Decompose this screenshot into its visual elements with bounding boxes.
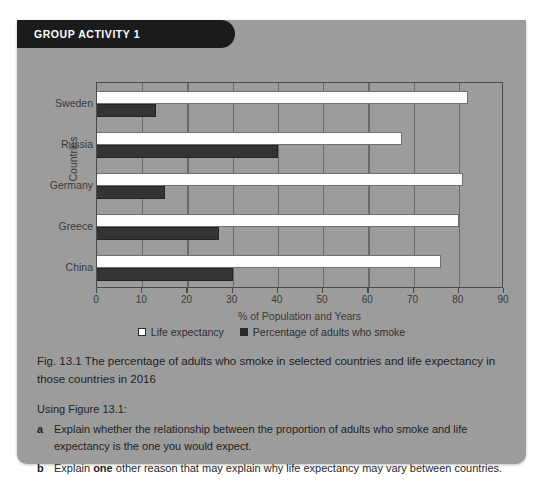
question-marker: b [37,460,54,477]
legend-item: Percentage of adults who smoke [240,326,405,338]
chart-bar [97,132,402,145]
chart-x-tick-label: 20 [181,294,192,305]
group-activity-panel: GROUP ACTIVITY 1 Countries SwedenRussiaG… [17,20,526,464]
chart-bar [97,227,219,240]
chart-category-label: China [47,261,93,273]
chart-x-tick-label: 60 [362,294,373,305]
questions-list: aExplain whether the relationship betwee… [37,421,519,482]
chart-x-tick-label: 50 [317,294,328,305]
question-text: Explain one other reason that may explai… [54,460,519,477]
chart-bar [97,186,165,199]
chart-category-label: Greece [47,220,93,232]
figure-caption: Fig. 13.1 The percentage of adults who s… [37,353,509,389]
activity-title: GROUP ACTIVITY 1 [34,28,140,40]
chart-x-axis: 0102030405060708090 [96,288,503,310]
chart-category-label: Germany [47,179,93,191]
chart-x-tick-label: 40 [271,294,282,305]
chart-x-tick-label: 90 [497,294,508,305]
chart-x-tick [458,288,459,293]
chart-bar [97,145,278,158]
question-item: bExplain one other reason that may expla… [37,460,519,477]
chart-bar [97,173,463,186]
chart-x-axis-title: % of Population and Years [96,310,503,322]
chart-x-tick [413,288,414,293]
chart-category-labels: SwedenRussiaGermanyGreeceChina [47,82,93,288]
question-item: aExplain whether the relationship betwee… [37,421,519,454]
chart-x-tick-label: 0 [93,294,99,305]
chart-x-tick-label: 30 [226,294,237,305]
legend-item: Life expectancy [138,326,224,338]
legend-label: Life expectancy [151,326,224,338]
chart-x-tick [96,288,97,293]
chart-x-tick [367,288,368,293]
chart-x-tick-label: 80 [452,294,463,305]
chart-category-label: Sweden [47,97,93,109]
chart-plot-area [96,82,503,288]
chart-x-tick [322,288,323,293]
chart-bar [97,104,156,117]
question-text: Explain whether the relationship between… [54,421,519,454]
questions-intro: Using Figure 13.1: [37,403,509,415]
activity-header-tab: GROUP ACTIVITY 1 [17,20,235,48]
chart-x-tick-label: 70 [407,294,418,305]
chart-legend: Life expectancyPercentage of adults who … [17,326,526,338]
chart-x-tick [186,288,187,293]
bar-chart: Countries SwedenRussiaGermanyGreeceChina… [17,48,526,346]
legend-label: Percentage of adults who smoke [253,326,405,338]
chart-x-tick [232,288,233,293]
chart-bar [97,214,459,227]
chart-category-label: Russia [47,138,93,150]
chart-bar [97,91,468,104]
chart-x-tick [277,288,278,293]
chart-x-tick [503,288,504,293]
legend-swatch-icon [240,328,248,336]
chart-bar [97,255,441,268]
question-marker: a [37,421,54,454]
chart-bar [97,268,233,281]
legend-swatch-icon [138,328,146,336]
chart-x-tick-label: 10 [136,294,147,305]
chart-x-tick [141,288,142,293]
